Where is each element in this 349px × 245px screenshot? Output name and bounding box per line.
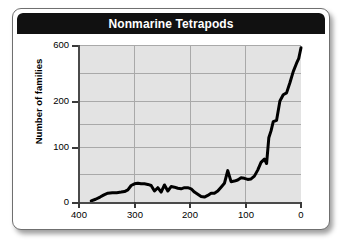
chart-card: Nonmarine Tetrapods Number of families 6… (12, 8, 330, 230)
chart-title: Nonmarine Tetrapods (108, 18, 233, 30)
y-tick-label-0: 0 (43, 197, 69, 207)
x-tick-mark-400 (78, 202, 80, 208)
x-tick-mark-0 (300, 202, 302, 208)
x-tick-label-0: 0 (281, 210, 321, 220)
x-tick-mark-200 (189, 202, 191, 208)
plot-region (79, 45, 301, 202)
y-tick-label-100: 100 (43, 142, 69, 152)
data-series-line (79, 45, 301, 202)
y-tick-label-200: 200 (43, 96, 69, 106)
chart-title-bar: Nonmarine Tetrapods (17, 13, 325, 34)
y-axis-line (78, 45, 80, 203)
x-tick-label-100: 100 (226, 210, 266, 220)
y-axis-title: Number of families (33, 52, 44, 152)
x-tick-label-400: 400 (59, 210, 99, 220)
x-tick-label-300: 300 (115, 210, 155, 220)
x-tick-label-200: 200 (170, 210, 210, 220)
y-tick-label-600: 600 (43, 40, 69, 50)
plot-area-wrapper: Number of families 600 200 100 0 (17, 34, 325, 224)
x-tick-mark-300 (134, 202, 136, 208)
chart-screenshot: Nonmarine Tetrapods Number of families 6… (0, 0, 349, 245)
x-tick-mark-100 (245, 202, 247, 208)
chart-card-inner: Nonmarine Tetrapods Number of families 6… (17, 13, 325, 225)
